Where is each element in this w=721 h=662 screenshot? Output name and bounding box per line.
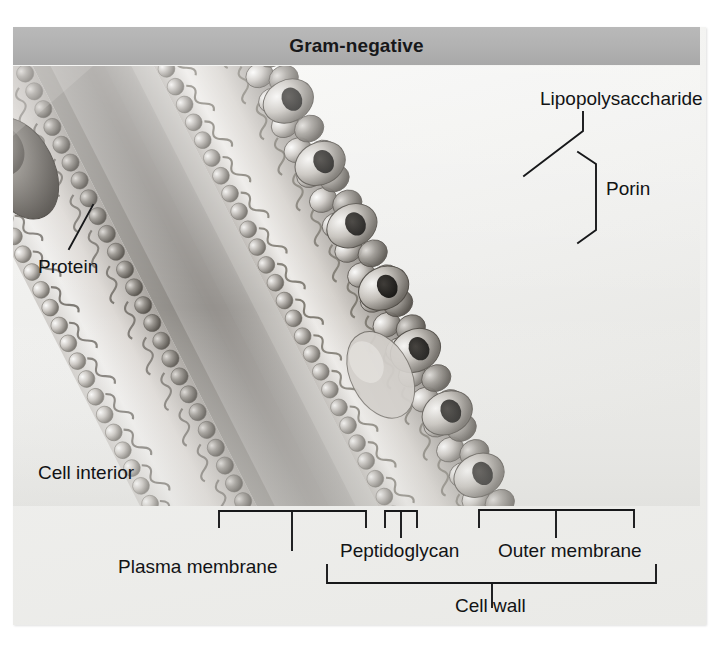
figure-title-band: Gram-negative [13, 27, 700, 65]
label-outer-membrane: Outer membrane [498, 540, 642, 562]
label-plasma-membrane: Plasma membrane [118, 556, 277, 578]
label-peptidoglycan: Peptidoglycan [340, 540, 459, 562]
label-cell-wall: Cell wall [455, 595, 526, 617]
figure-page: Gram-negative [0, 0, 721, 662]
label-lipopolysaccharide: Lipopolysaccharide [540, 88, 703, 110]
cell-envelope-illustration [13, 66, 700, 506]
label-cell-interior: Cell interior [38, 462, 134, 484]
label-protein: Protein [38, 256, 98, 278]
figure-title: Gram-negative [289, 35, 423, 57]
label-porin: Porin [606, 178, 650, 200]
